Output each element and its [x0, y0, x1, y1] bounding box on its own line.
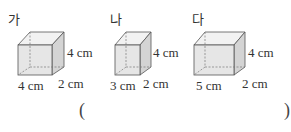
depth-label: 2 cm	[143, 76, 169, 92]
figure-label: 다	[192, 9, 204, 28]
cuboid-da-drawing	[192, 30, 248, 76]
depth-label: 2 cm	[58, 76, 84, 92]
width-label: 5 cm	[196, 78, 222, 94]
figure-label: 가	[8, 9, 20, 28]
width-label: 4 cm	[18, 78, 44, 94]
height-label: 4 cm	[67, 45, 93, 61]
cuboid-na-drawing	[113, 30, 153, 76]
figure-label: 나	[110, 9, 122, 28]
width-label: 3 cm	[110, 78, 136, 94]
open-paren: (	[79, 100, 85, 121]
height-label: 4 cm	[153, 45, 179, 61]
depth-label: 2 cm	[242, 76, 268, 92]
cuboid-ga-drawing	[16, 30, 66, 76]
close-paren: )	[284, 100, 290, 121]
height-label: 4 cm	[248, 45, 274, 61]
